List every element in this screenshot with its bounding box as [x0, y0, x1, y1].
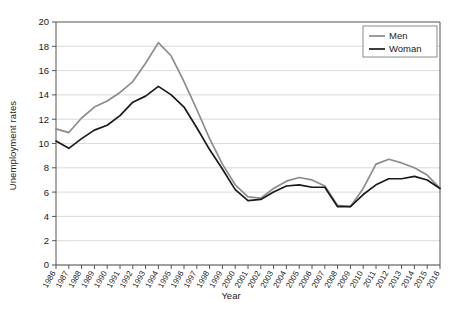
y-tick-label: 8: [44, 162, 49, 173]
y-tick-label: 10: [38, 138, 49, 149]
y-tick-label: 20: [38, 16, 49, 27]
legend-label-men: Men: [389, 30, 407, 41]
x-tick-label: 2010: [348, 269, 365, 289]
x-tick-label: 2016: [425, 269, 442, 289]
y-tick-label: 2: [44, 235, 49, 246]
y-tick-label: 14: [38, 89, 49, 100]
y-tick-label: 16: [38, 65, 49, 76]
series-line-woman: [56, 86, 440, 206]
unemployment-rates-line-chart: Unemployment rates Year 0246810121416182…: [0, 0, 462, 312]
y-tick-label: 0: [44, 259, 49, 270]
y-tick-label: 6: [44, 187, 49, 198]
legend-label-woman: Woman: [389, 43, 422, 54]
y-tick-label: 18: [38, 41, 49, 52]
y-tick-label: 4: [44, 211, 49, 222]
y-tick-label: 12: [38, 114, 49, 125]
chart-plot-svg: 0246810121416182019861987198819891990199…: [0, 0, 462, 312]
